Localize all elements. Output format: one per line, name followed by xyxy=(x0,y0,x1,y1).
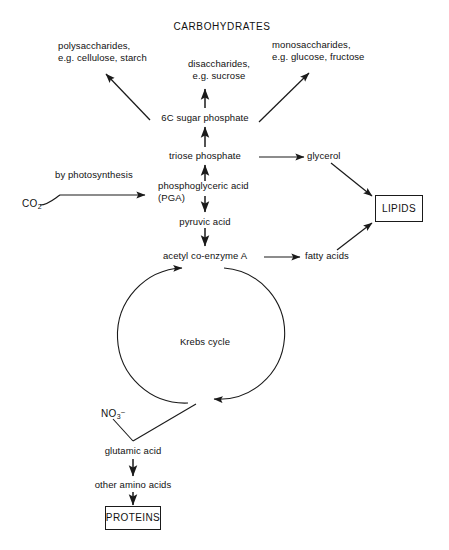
node-pga-line1: phosphoglyceric acid xyxy=(158,180,249,192)
node-lipids-label: LIPIDS xyxy=(382,203,416,215)
node-nitrate-superscript: – xyxy=(121,408,125,415)
node-polysaccharides-line1: polysaccharides, xyxy=(58,40,130,52)
node-other-amino-acids: other amino acids xyxy=(95,479,172,491)
edge-label-by-photosynthesis: by photosynthesis xyxy=(55,169,133,181)
node-fatty-acids: fatty acids xyxy=(305,250,349,262)
node-polysaccharides-line2: e.g. cellulose, starch xyxy=(58,52,147,64)
node-nitrate: NO3– xyxy=(101,406,125,423)
node-acetyl-coenzyme-a: acetyl co-enzyme A xyxy=(163,250,247,262)
page-title: CARBOHYDRATES xyxy=(173,21,270,33)
arrow-fatty-acids-to-lipids xyxy=(337,223,372,250)
node-6c-sugar-phosphate: 6C sugar phosphate xyxy=(161,112,248,124)
arrow-sugar-phosphate-to-monosaccharides xyxy=(259,73,309,122)
node-glutamic-acid: glutamic acid xyxy=(105,445,162,457)
line-krebs-to-glutamic xyxy=(133,404,196,441)
diagram-page: CARBOHYDRATES polysaccharides, e.g. cell… xyxy=(0,0,449,550)
arrow-krebs-cycle-left-arc xyxy=(117,268,188,403)
node-co2-subscript: 2 xyxy=(38,203,42,210)
arrow-co2-to-pga xyxy=(40,195,145,205)
arrow-sugar-phosphate-to-polysaccharides xyxy=(106,74,150,120)
node-nitrate-text: NO xyxy=(101,408,117,419)
node-pyruvic-acid: pyruvic acid xyxy=(179,216,230,228)
node-co2-text: CO xyxy=(22,198,38,209)
node-pga-line2: (PGA) xyxy=(158,192,185,204)
node-monosaccharides-line2: e.g. glucose, fructose xyxy=(272,51,365,63)
node-lipids-box: LIPIDS xyxy=(375,195,423,222)
node-proteins-label: PROTEINS xyxy=(106,512,160,524)
arrow-glycerol-to-lipids xyxy=(331,163,372,196)
node-glycerol: glycerol xyxy=(307,150,341,162)
pathway-diagram-canvas xyxy=(0,0,449,550)
node-krebs-cycle: Krebs cycle xyxy=(180,336,230,348)
node-disaccharides-line1: disaccharides, xyxy=(188,58,250,70)
node-triose-phosphate: triose phosphate xyxy=(169,150,241,162)
node-proteins-box: PROTEINS xyxy=(105,506,161,530)
node-co2: CO2 xyxy=(22,198,42,213)
node-monosaccharides-line1: monosaccharides, xyxy=(272,39,351,51)
arrow-krebs-cycle-right-arc xyxy=(214,268,285,399)
node-disaccharides-line2: e.g. sucrose xyxy=(193,70,246,82)
